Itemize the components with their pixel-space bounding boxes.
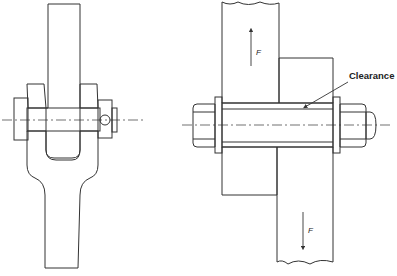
pin [14,98,117,140]
lower-plate [277,58,333,264]
bolt-end [366,112,376,139]
bolted-joint: F F Clearance [182,2,394,264]
joint-diagram: F F Clearance [0,0,397,276]
clevis-joint [2,4,143,268]
rod-eye [46,4,80,158]
clearance-label: Clearance [349,70,394,81]
force-label-bottom: F [308,226,314,235]
nut [340,104,366,147]
upper-plate [222,2,279,195]
bolt-head [193,104,215,147]
force-label-top: F [256,48,262,57]
fork-clevis [27,84,98,268]
